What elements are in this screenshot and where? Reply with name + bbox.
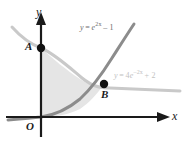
x-axis-arrowhead xyxy=(157,112,170,122)
equation-decay-eq: = xyxy=(119,71,124,80)
y-axis-label: y xyxy=(36,6,41,18)
x-axis-label: x xyxy=(172,110,177,122)
equation-decay-lhs: y xyxy=(114,71,118,80)
equation-growth-eq: = xyxy=(85,23,90,32)
point-b-marker xyxy=(100,80,108,88)
equation-label-decay: y=4e–2x+ 2 xyxy=(114,72,156,80)
equation-growth-lhs: y xyxy=(80,23,84,32)
exponential-curves-figure: y x O A B y=e2x– 1 y=4e–2x+ 2 xyxy=(0,0,189,145)
equation-growth-exponent: 2x xyxy=(95,21,101,27)
equation-decay-exponent: –2x xyxy=(133,69,143,75)
point-a-label: A xyxy=(25,41,32,52)
equation-growth-tail: – 1 xyxy=(103,23,114,32)
point-b-label: B xyxy=(101,89,108,100)
point-a-marker xyxy=(37,44,45,52)
origin-label: O xyxy=(26,121,34,132)
equation-decay-tail: + 2 xyxy=(145,71,156,80)
equation-label-growth: y=e2x– 1 xyxy=(80,24,114,32)
